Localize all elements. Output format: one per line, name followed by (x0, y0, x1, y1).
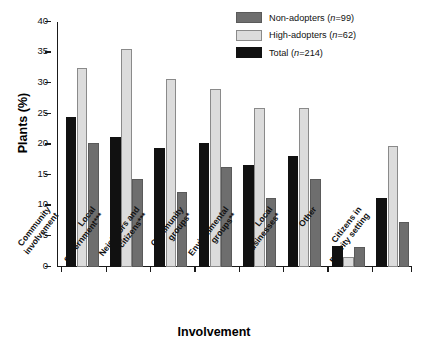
chart-legend: Non-adopters (n=99)High-adopters (n=62)T… (236, 11, 356, 64)
legend-item: Non-adopters (n=99) (236, 11, 356, 24)
y-tick-label: 20 (37, 138, 48, 148)
y-tick: 35 (51, 51, 57, 52)
legend-item: High-adopters (n=62) (236, 29, 356, 42)
legend-item: Total (n=214) (236, 46, 356, 59)
bar-total (288, 156, 299, 267)
y-tick: 40 (51, 21, 57, 22)
legend-label: High-adopters (n=62) (269, 30, 356, 40)
y-tick-label: 30 (37, 77, 48, 87)
y-axis-line (57, 22, 58, 267)
bar-group (376, 22, 409, 267)
x-tick-mark (411, 267, 412, 272)
bar-high (388, 146, 399, 267)
x-tick-mark (372, 267, 373, 272)
bar-non (399, 222, 410, 267)
legend-swatch-total (236, 47, 262, 58)
legend-label: Non-adopters (n=99) (269, 13, 354, 23)
bar-high (343, 257, 354, 267)
y-axis-title-text: Plants (%) (16, 92, 30, 152)
legend-swatch-non (236, 12, 262, 23)
bar-non (354, 247, 365, 267)
bar-high (299, 108, 310, 267)
y-tick: 10 (51, 204, 57, 205)
y-tick-label: 15 (37, 169, 48, 179)
y-axis-title: Plants (%) (16, 0, 30, 245)
x-tick-mark (283, 267, 284, 272)
bar-total (376, 198, 387, 267)
y-tick: 15 (51, 174, 57, 175)
x-axis-title: Involvement (0, 325, 428, 339)
y-tick: 20 (51, 143, 57, 144)
y-tick-label: 25 (37, 108, 48, 118)
y-tick: 30 (51, 82, 57, 83)
y-tick: 25 (51, 113, 57, 114)
legend-swatch-high (236, 30, 262, 41)
y-tick-label: 35 (37, 47, 48, 57)
y-tick: 5 (51, 235, 57, 236)
y-tick-label: 40 (37, 16, 48, 26)
bar-chart: 0510152025303540 Plants (%) Communityinv… (0, 0, 428, 351)
legend-label: Total (n=214) (269, 48, 323, 58)
